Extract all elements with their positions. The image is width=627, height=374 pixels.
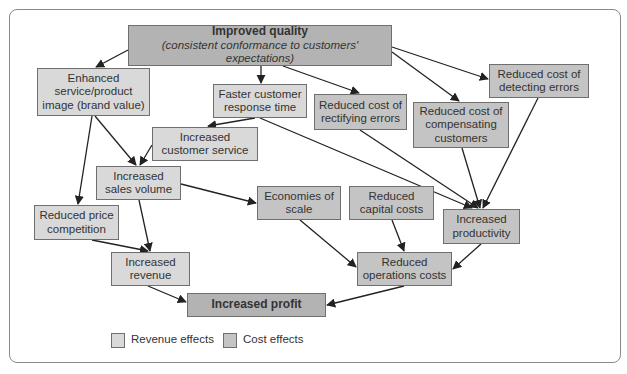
node-reduced-rectifying: Reduced cost of rectifying errors bbox=[314, 94, 407, 130]
node-subtitle: (consistent conformance to customers' ex… bbox=[129, 39, 391, 66]
node-reduced-price-competition: Reduced price competition bbox=[34, 205, 119, 240]
arrow-sales-to-economies bbox=[181, 184, 256, 203]
node-reduced-operations: Reduced operations costs bbox=[357, 252, 452, 286]
node-line: Reduced price bbox=[39, 209, 113, 223]
legend-swatch-cost bbox=[223, 333, 237, 348]
node-line: detecting errors bbox=[499, 81, 579, 95]
arrow-sales-to-revenue bbox=[139, 200, 150, 251]
node-line: customer service bbox=[162, 144, 249, 158]
legend-label-cost: Cost effects bbox=[243, 333, 304, 345]
node-line: image (brand value) bbox=[42, 99, 144, 113]
node-increased-productivity: Increased productivity bbox=[443, 209, 520, 244]
arrow-service-to-sales bbox=[140, 145, 152, 165]
arrow-quality-to-image bbox=[96, 50, 128, 67]
node-enhanced-image: Enhanced service/product image (brand va… bbox=[37, 68, 150, 116]
node-increased-sales: Increased sales volume bbox=[96, 166, 181, 200]
node-line: operations costs bbox=[363, 269, 447, 283]
node-line: sales volume bbox=[105, 183, 172, 197]
node-line: Increased bbox=[125, 256, 176, 270]
arrow-capital-to-operations bbox=[392, 220, 404, 251]
arrow-operations-to-profit bbox=[327, 286, 404, 305]
node-line: Reduced cost of bbox=[497, 68, 580, 82]
node-economies-scale: Economies of scale bbox=[257, 186, 341, 220]
node-increased-service: Increased customer service bbox=[152, 127, 258, 161]
arrow-revenue-to-profit bbox=[148, 286, 186, 302]
node-increased-profit: Increased profit bbox=[187, 293, 326, 317]
arrow-image-to-sales bbox=[95, 116, 136, 165]
arrow-pricecomp-to-revenue bbox=[92, 240, 148, 251]
node-title: Increased profit bbox=[211, 298, 301, 312]
node-increased-revenue: Increased revenue bbox=[111, 252, 190, 286]
node-line: service/product bbox=[55, 85, 133, 99]
node-line: Increased bbox=[180, 131, 231, 145]
legend-label-revenue: Revenue effects bbox=[131, 333, 214, 345]
node-line: Faster customer bbox=[218, 88, 301, 102]
node-line: Increased bbox=[113, 170, 164, 184]
arrow-response-to-service bbox=[208, 118, 255, 126]
node-line: compensating bbox=[425, 118, 497, 132]
node-line: Enhanced bbox=[68, 72, 120, 86]
node-line: scale bbox=[286, 203, 313, 217]
node-line: revenue bbox=[130, 269, 172, 283]
node-line: Reduced cost of bbox=[319, 99, 402, 113]
node-line: rectifying errors bbox=[321, 112, 400, 126]
arrow-image-to-pricecomp bbox=[78, 116, 92, 204]
node-reduced-capital: Reduced capital costs bbox=[349, 186, 434, 220]
node-line: Reduced bbox=[368, 190, 414, 204]
node-reduced-detecting: Reduced cost of detecting errors bbox=[489, 64, 589, 98]
node-line: competition bbox=[47, 223, 106, 237]
legend-swatch-revenue bbox=[111, 333, 125, 348]
node-title: Improved quality bbox=[212, 25, 308, 39]
node-line: Economies of bbox=[264, 190, 334, 204]
node-line: Reduced bbox=[381, 256, 427, 270]
arrow-productivity-to-operations bbox=[453, 244, 481, 269]
node-line: response time bbox=[224, 101, 296, 115]
node-improved-quality: Improved quality (consistent conformance… bbox=[128, 25, 392, 66]
node-reduced-compensating: Reduced cost of compensating customers bbox=[413, 102, 509, 148]
node-faster-response: Faster customer response time bbox=[213, 84, 307, 118]
node-line: Reduced cost of bbox=[419, 105, 502, 119]
node-line: customers bbox=[434, 132, 487, 146]
node-line: productivity bbox=[452, 227, 510, 241]
arrow-economies-to-operations bbox=[300, 220, 356, 267]
node-line: capital costs bbox=[360, 203, 423, 217]
node-line: Increased bbox=[456, 213, 507, 227]
